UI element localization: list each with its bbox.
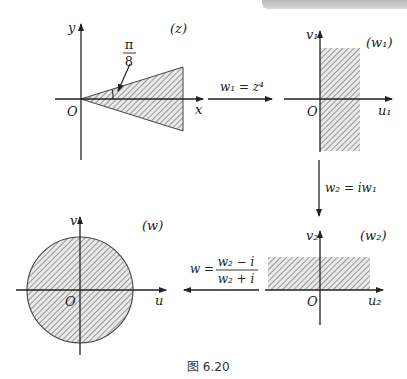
mapping-3-lhs: w = [190,262,214,276]
w2-plane: v₂ u₂ O (w₂) [265,228,386,325]
w-v-label: v [70,213,78,228]
w2-plane-label: (w₂) [360,228,386,243]
mapping-3: w = w₂ − i w₂ + i [184,255,259,290]
mapping-3-denominator: w₂ + i [218,272,255,286]
w-u-label: u [155,293,163,308]
w1-origin-label: O [307,104,318,119]
mapping-1: w₁ = z⁴ [208,80,272,99]
z-plane-label: (z) [170,21,187,36]
mapping-3-numerator: w₂ − i [218,255,255,269]
w1-u-label: u₁ [378,103,392,118]
angle-denominator: 8 [125,54,133,69]
w1-v-label: v₁ [306,27,319,42]
z-plane: π 8 y x O (z) [55,20,203,160]
w2-v-label: v₂ [306,228,319,243]
z-y-label: y [67,20,76,35]
angle-numerator: π [125,37,134,52]
mapping-1-formula: w₁ = z⁴ [220,80,264,94]
mapping-2: w₂ = iw₁ [319,160,377,216]
w-plane: v u O (w) [16,213,166,355]
w1-plane-label: (w₁) [366,35,392,50]
z-origin-label: O [67,104,78,119]
w-origin-label: O [65,294,76,309]
figure-caption: 图 6.20 [187,360,230,374]
conformal-mapping-figure: π 8 y x O (z) w₁ = z⁴ v₁ u₁ O (w₁) w₂ = … [0,0,407,379]
z-x-label: x [195,102,203,117]
w2-u-label: u₂ [368,293,382,308]
mapping-2-formula: w₂ = iw₁ [325,181,377,195]
w-plane-label: (w) [142,218,163,233]
diagram-canvas: π 8 y x O (z) w₁ = z⁴ v₁ u₁ O (w₁) w₂ = … [0,0,407,379]
w2-strip-region [268,257,370,290]
w2-origin-label: O [307,294,318,309]
w1-plane: v₁ u₁ O (w₁) [284,27,392,152]
